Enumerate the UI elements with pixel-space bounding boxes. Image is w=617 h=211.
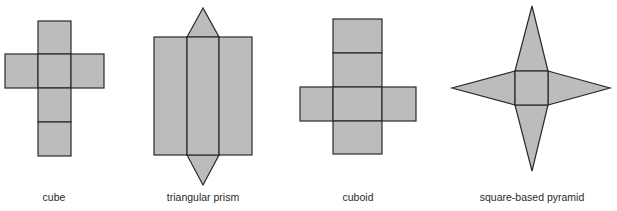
- cube-face-center: [38, 54, 71, 88]
- pyramid-triangle-right: [548, 71, 610, 105]
- square-based-pyramid-net: [452, 6, 610, 171]
- cube-label: cube: [43, 191, 66, 203]
- pyramid-triangle-bottom: [515, 105, 548, 171]
- cuboid-net: [300, 19, 416, 154]
- pyramid-triangle-left: [452, 71, 515, 105]
- cube-face-top: [38, 21, 71, 54]
- square-based-pyramid-label: square-based pyramid: [480, 191, 584, 203]
- cube-face-left: [5, 54, 38, 88]
- prism-triangle-top: [187, 8, 219, 37]
- cuboid-face-top: [333, 19, 382, 53]
- prism-triangle-bottom: [187, 155, 219, 185]
- cuboid-label: cuboid: [343, 191, 374, 203]
- cube-net: [5, 21, 104, 156]
- cuboid-face-left: [300, 87, 333, 121]
- nets-diagram: cube triangular prism cuboid square-base…: [0, 0, 617, 211]
- cube-face-bottom: [38, 122, 71, 156]
- prism-face-middle: [187, 37, 219, 155]
- cuboid-face-bottom: [333, 121, 382, 154]
- cube-face-right: [71, 54, 104, 88]
- pyramid-triangle-top: [515, 6, 548, 71]
- cube-face-lower: [38, 88, 71, 122]
- cuboid-face-right: [382, 87, 416, 121]
- triangular-prism-label: triangular prism: [167, 191, 239, 203]
- cuboid-face-upper: [333, 53, 382, 87]
- triangular-prism-net: [154, 8, 252, 185]
- nets-figure: [0, 0, 617, 211]
- pyramid-square-base: [515, 71, 548, 105]
- prism-face-right: [219, 37, 252, 155]
- cuboid-face-center: [333, 87, 382, 121]
- prism-face-left: [154, 37, 187, 155]
